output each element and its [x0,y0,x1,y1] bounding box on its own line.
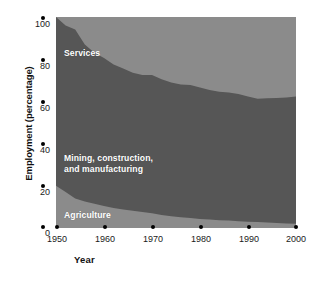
x-tick-1990-label: 1990 [229,234,269,244]
series-label-agriculture: Agriculture [64,210,111,221]
x-tick-2000-dot [294,225,298,229]
x-tick-2000-label: 2000 [276,234,316,244]
employment-area-chart: Employment (percentage) 100 80 60 40 20 … [0,0,327,281]
x-tick-1970-label: 1970 [133,234,173,244]
x-tick-1980-label: 1980 [181,234,221,244]
x-axis-title: Year [74,254,95,265]
x-tick-1980-dot [199,225,203,229]
series-label-services: Services [64,48,100,59]
x-tick-1950-label: 1950 [37,234,77,244]
series-label-mining-line2: and manufacturing [64,164,143,175]
series-label-mining-line1: Mining, construction, [64,153,153,164]
x-tick-1970-dot [151,225,155,229]
x-tick-1990-dot [247,225,251,229]
x-tick-1960-label: 1960 [85,234,125,244]
x-tick-1960-dot [103,225,107,229]
x-tick-1950-dot [55,225,59,229]
